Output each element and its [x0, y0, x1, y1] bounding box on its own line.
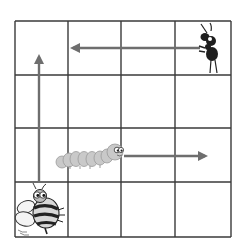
- grid-diagram: [0, 0, 244, 249]
- caterpillar-icon: [56, 144, 124, 169]
- bee-icon: [14, 183, 65, 235]
- ant-icon: [199, 23, 218, 73]
- grid-canvas: [0, 0, 244, 249]
